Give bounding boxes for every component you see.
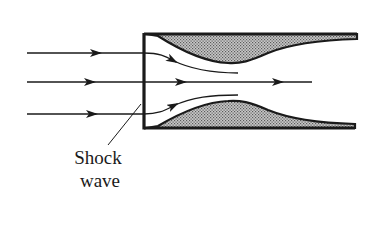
shock-label-line1: Shock: [58, 148, 138, 168]
shock-label-line2: wave: [60, 171, 140, 191]
shock-leader-line: [108, 104, 141, 145]
streamline-upper-curved: [144, 53, 176, 62]
lower-wall-body: [146, 101, 355, 128]
upper-wall-body: [146, 34, 357, 63]
streamline-lower-curved: [144, 104, 177, 114]
